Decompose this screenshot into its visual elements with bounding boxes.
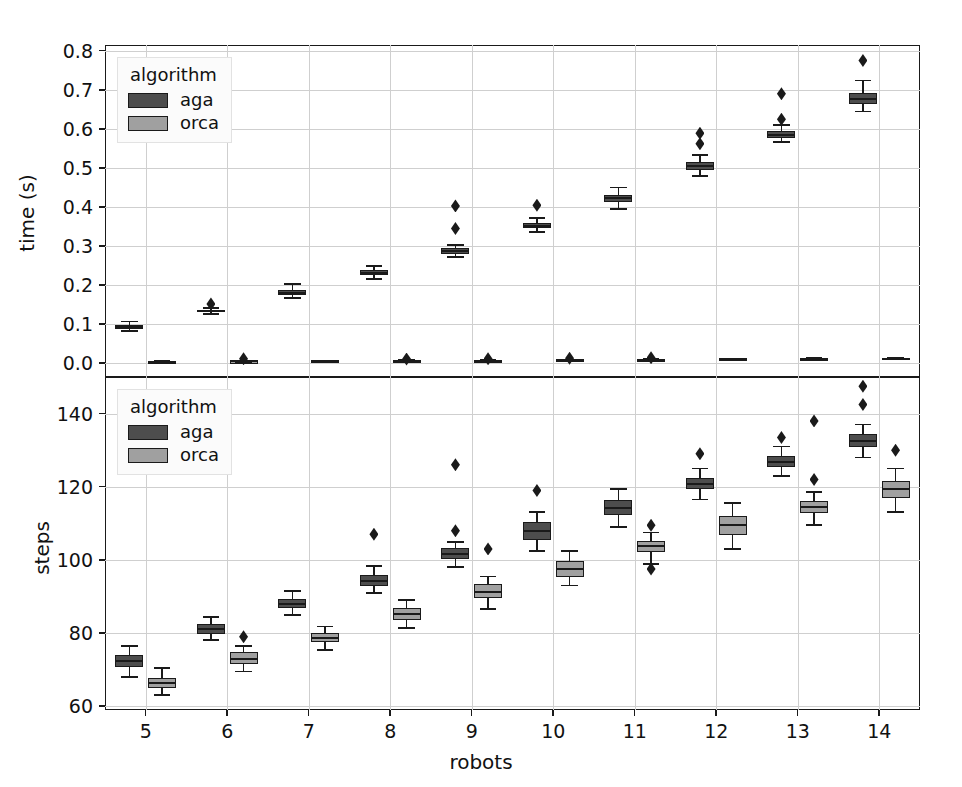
figure-canvas: 0.00.10.20.30.40.50.60.70.8 time (s) alg… xyxy=(0,0,962,787)
legend-entry-orca[interactable]: orca xyxy=(128,444,219,466)
whisker-cap xyxy=(855,80,872,82)
whisker xyxy=(699,468,701,477)
x-tick-mark xyxy=(226,710,228,716)
whisker-cap xyxy=(773,475,790,477)
whisker xyxy=(243,646,245,652)
whisker-cap xyxy=(643,532,660,534)
whisker xyxy=(324,627,326,634)
steps-legend: algorithm aga orca xyxy=(117,389,232,475)
median-line xyxy=(230,658,258,660)
outlier-marker xyxy=(858,380,867,393)
legend-title: algorithm xyxy=(130,396,219,418)
median-line xyxy=(849,98,877,100)
whisker xyxy=(699,155,701,162)
whisker xyxy=(895,498,897,513)
x-tick-label: 8 xyxy=(367,722,413,741)
x-tick-mark xyxy=(878,710,880,716)
legend-entry-aga[interactable]: aga xyxy=(128,421,219,443)
legend-label-aga: aga xyxy=(180,423,214,441)
whisker xyxy=(292,591,294,599)
whisker xyxy=(487,576,489,584)
whisker xyxy=(650,533,652,541)
whisker-cap xyxy=(447,256,464,258)
x-tick-mark xyxy=(471,710,473,716)
y-tick-label: 0.4 xyxy=(33,198,93,217)
median-line xyxy=(767,134,795,136)
legend-label-orca: orca xyxy=(180,114,219,132)
whisker-cap xyxy=(366,278,383,280)
whisker-cap xyxy=(398,599,415,601)
whisker-cap xyxy=(366,265,383,267)
whisker-cap xyxy=(610,187,627,189)
whisker xyxy=(618,489,620,501)
outlier-marker xyxy=(451,458,460,471)
x-gridline xyxy=(716,45,717,377)
x-gridline xyxy=(309,45,310,377)
outlier-marker xyxy=(810,473,819,486)
time-y-axis-label: time (s) xyxy=(15,153,39,273)
whisker-cap xyxy=(610,208,627,210)
median-line xyxy=(474,591,502,593)
median-line xyxy=(441,553,469,555)
whisker-cap xyxy=(480,608,497,610)
median-line xyxy=(311,637,339,639)
whisker-cap xyxy=(447,244,464,246)
x-tick-mark xyxy=(552,710,554,716)
whisker-cap xyxy=(529,217,546,219)
outlier-marker xyxy=(695,447,704,460)
whisker xyxy=(895,468,897,481)
x-tick-mark xyxy=(145,710,147,716)
legend-entry-aga[interactable]: aga xyxy=(128,89,219,111)
x-gridline xyxy=(472,45,473,377)
whisker-cap xyxy=(855,111,872,113)
whisker-cap xyxy=(806,524,823,526)
x-gridline xyxy=(879,377,880,710)
whisker-cap xyxy=(317,626,334,628)
whisker xyxy=(781,447,783,457)
whisker-cap xyxy=(121,645,138,647)
median-line xyxy=(278,292,306,294)
x-gridline xyxy=(553,45,554,377)
x-tick-mark xyxy=(797,710,799,716)
median-line xyxy=(686,483,714,485)
whisker xyxy=(732,503,734,516)
whisker-cap xyxy=(773,141,790,143)
whisker-cap xyxy=(692,499,709,501)
whisker-cap xyxy=(284,614,301,616)
x-gridline xyxy=(798,377,799,710)
x-gridline xyxy=(390,45,391,377)
median-line xyxy=(360,272,388,274)
median-line xyxy=(115,326,143,328)
whisker-cap xyxy=(480,576,497,578)
median-line xyxy=(197,628,225,630)
whisker xyxy=(569,551,571,561)
median-line xyxy=(686,165,714,167)
whisker-cap xyxy=(806,491,823,493)
whisker xyxy=(813,492,815,501)
x-tick-mark xyxy=(389,710,391,716)
x-gridline xyxy=(798,45,799,377)
legend-entry-orca[interactable]: orca xyxy=(128,112,219,134)
y-tick-label: 0.5 xyxy=(33,159,93,178)
whisker-cap xyxy=(610,488,627,490)
y-tick-label: 0.1 xyxy=(33,315,93,334)
x-gridline xyxy=(879,45,880,377)
outlier-marker xyxy=(891,444,900,457)
whisker-cap xyxy=(203,639,220,641)
whisker-cap xyxy=(447,541,464,543)
x-gridline xyxy=(553,377,554,710)
median-line xyxy=(278,603,306,605)
whisker xyxy=(455,542,457,549)
whisker-cap xyxy=(887,359,904,361)
median-line xyxy=(719,524,747,526)
legend-swatch-orca xyxy=(128,448,168,463)
y-tick-label: 0.8 xyxy=(33,42,93,61)
median-line xyxy=(523,530,551,532)
whisker-cap xyxy=(529,511,546,513)
whisker-cap xyxy=(154,694,171,696)
x-gridline xyxy=(472,377,473,710)
outlier-marker xyxy=(451,199,460,212)
whisker-cap xyxy=(203,313,220,315)
median-line xyxy=(523,225,551,227)
x-tick-mark xyxy=(308,710,310,716)
